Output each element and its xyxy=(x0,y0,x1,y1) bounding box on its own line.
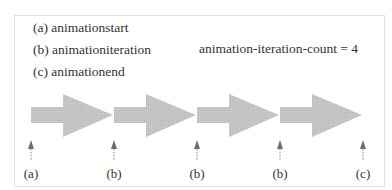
event-marker-icon xyxy=(277,140,283,161)
event-marker-icon xyxy=(194,140,200,161)
iteration-arrow-icon xyxy=(197,94,279,137)
iteration-arrow-icon xyxy=(280,94,362,137)
marker-label-iteration-2: (b) xyxy=(182,166,212,182)
marker-label-start: (a) xyxy=(16,166,46,182)
marker-label-iteration-1: (b) xyxy=(99,166,129,182)
iteration-arrow-icon xyxy=(114,94,196,137)
marker-label-iteration-3: (b) xyxy=(265,166,295,182)
iteration-arrows xyxy=(31,94,362,137)
event-markers xyxy=(28,140,366,161)
event-marker-icon xyxy=(360,140,366,161)
animation-timeline xyxy=(0,0,392,190)
marker-label-end: (c) xyxy=(348,166,378,182)
event-marker-icon xyxy=(111,140,117,161)
event-marker-icon xyxy=(28,140,34,161)
iteration-arrow-icon xyxy=(31,94,113,137)
